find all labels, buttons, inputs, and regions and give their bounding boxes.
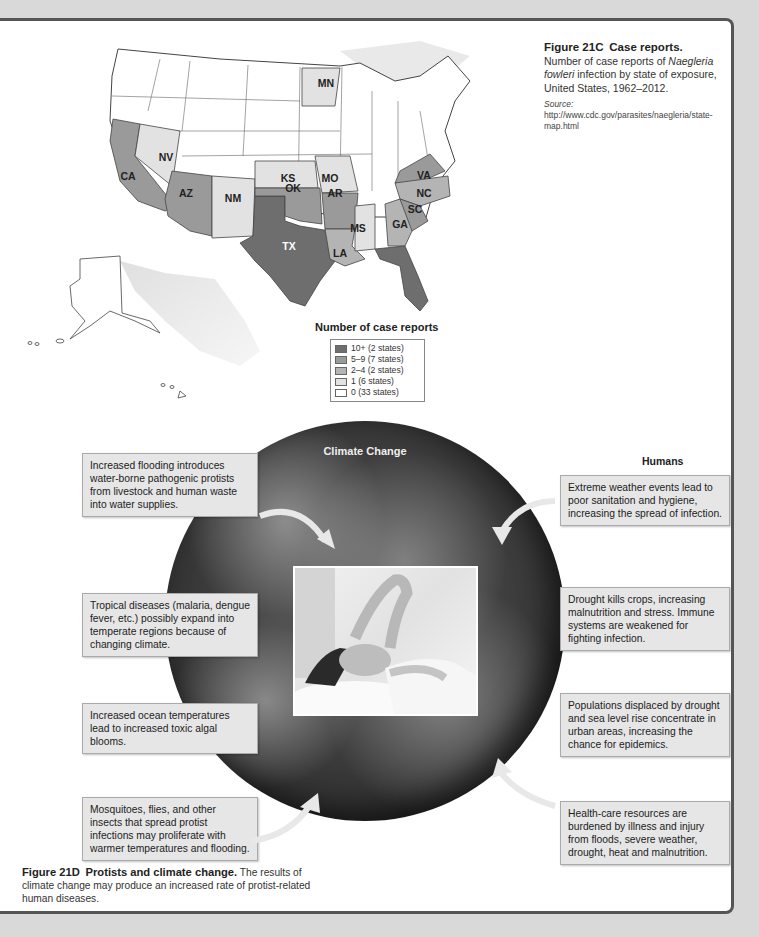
state-label-fl: FL — [422, 262, 435, 274]
map-legend: Number of case reports 10+ (2 states) 5–… — [312, 321, 438, 402]
textbook-page: MN NV CA KS MO VA NC AZ NM OK AR SC GA M… — [0, 18, 734, 914]
state-label-va: VA — [417, 169, 431, 181]
state-label-ms: MS — [350, 222, 366, 234]
legend-label: 1 (6 states) — [351, 376, 394, 387]
protist-effect-box: Increased flooding introduces water-born… — [82, 453, 258, 517]
sick-woman-photo — [293, 566, 478, 716]
human-effect-box: Populations displaced by drought and sea… — [560, 693, 730, 757]
state-label-sc: SC — [408, 203, 423, 215]
legend-swatch — [335, 345, 347, 353]
caption-text: Number of case reports of — [544, 55, 668, 67]
figure-title: Case reports. — [609, 41, 683, 53]
legend-item: 1 (6 states) — [335, 376, 420, 387]
legend-item: 5–9 (7 states) — [335, 354, 420, 365]
legend-box: 10+ (2 states) 5–9 (7 states) 2–4 (2 sta… — [330, 339, 425, 402]
figure-21c-caption: Figure 21C Case reports. Number of case … — [544, 41, 719, 132]
protist-effect-box: Tropical diseases (malaria, dengue fever… — [82, 593, 258, 657]
figure-21d-caption: Figure 21D Protists and climate change. … — [22, 866, 322, 905]
climate-change-diagram: Climate Change Protists Humans Increased… — [0, 421, 734, 914]
state-label-ga: GA — [392, 218, 408, 230]
figure-title: Protists and climate change. — [86, 866, 238, 878]
legend-swatch — [335, 367, 347, 375]
state-label-nm: NM — [225, 192, 241, 204]
figure-number: Figure 21D — [22, 866, 80, 878]
humans-heading: Humans — [642, 455, 683, 467]
legend-title: Number of case reports — [315, 321, 438, 333]
legend-swatch — [335, 389, 347, 397]
curved-arrow-icon — [255, 501, 345, 561]
curved-arrow-icon — [480, 756, 560, 816]
figure-number: Figure 21C — [544, 41, 603, 53]
state-label-mn: MN — [318, 77, 334, 89]
legend-item: 0 (33 states) — [335, 387, 420, 398]
legend-label: 2–4 (2 states) — [351, 365, 404, 376]
legend-label: 5–9 (7 states) — [351, 354, 404, 365]
state-label-nv: NV — [159, 151, 174, 163]
curved-arrow-icon — [240, 791, 330, 851]
sick-woman-illustration — [295, 568, 478, 716]
state-label-ca: CA — [120, 170, 135, 182]
protist-effect-box: Mosquitoes, flies, and other insects tha… — [82, 797, 258, 861]
source-label: Source: — [544, 99, 573, 109]
human-effect-box: Health-care resources are burdened by il… — [560, 801, 730, 865]
state-label-az: AZ — [179, 187, 193, 199]
state-label-nc: NC — [416, 187, 431, 199]
legend-swatch — [335, 378, 347, 386]
human-effect-box: Drought kills crops, increasing malnutri… — [560, 587, 730, 651]
curved-arrow-icon — [480, 491, 560, 551]
legend-item: 10+ (2 states) — [335, 343, 420, 354]
legend-label: 10+ (2 states) — [351, 343, 404, 354]
us-map-graphic — [0, 21, 540, 421]
state-label-mo: MO — [322, 172, 339, 184]
state-label-tx: TX — [282, 240, 295, 252]
legend-label: 0 (33 states) — [351, 387, 399, 398]
source-url: http://www.cdc.gov/parasites/naegleria/s… — [544, 110, 713, 131]
human-effect-box: Extreme weather events lead to poor sani… — [560, 475, 730, 526]
source-citation: Source: http://www.cdc.gov/parasites/nae… — [544, 99, 719, 132]
state-label-ok: OK — [285, 182, 301, 194]
legend-swatch — [335, 356, 347, 364]
state-label-ar: AR — [327, 187, 342, 199]
legend-item: 2–4 (2 states) — [335, 365, 420, 376]
state-label-la: LA — [333, 247, 347, 259]
protist-effect-box: Increased ocean temperatures lead to inc… — [82, 703, 258, 754]
case-reports-map: MN NV CA KS MO VA NC AZ NM OK AR SC GA M… — [0, 21, 540, 421]
